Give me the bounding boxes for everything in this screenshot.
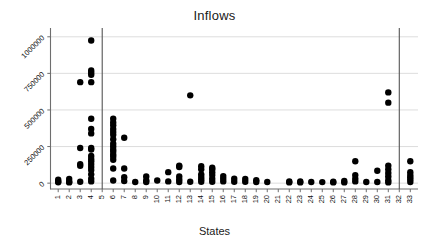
x-tick-label-1: 1 <box>53 195 62 199</box>
data-point <box>143 179 149 185</box>
data-point <box>165 178 171 184</box>
data-point <box>88 146 94 152</box>
data-point <box>385 99 391 105</box>
data-point <box>374 179 380 185</box>
data-point <box>308 179 314 185</box>
chart-figure: Inflows 02500005000007500001000000 12345… <box>0 0 429 248</box>
data-point <box>341 179 347 185</box>
data-point <box>385 89 391 95</box>
x-axis-title: States <box>0 225 429 237</box>
data-point <box>132 179 138 185</box>
x-tick-label-24: 24 <box>306 195 315 203</box>
x-tick-label-2: 2 <box>64 195 73 199</box>
data-point <box>363 179 369 185</box>
data-point <box>187 92 193 98</box>
data-point <box>88 79 94 85</box>
data-point <box>110 157 116 163</box>
x-tick-label-11: 11 <box>163 195 172 203</box>
x-tick-label-14: 14 <box>196 195 205 203</box>
x-tick-label-26: 26 <box>328 195 337 203</box>
data-point <box>88 37 94 43</box>
data-point <box>352 178 358 184</box>
y-tick-label-500000: 500000 <box>22 107 46 131</box>
x-tick-label-20: 20 <box>262 195 271 203</box>
x-tick-label-16: 16 <box>218 195 227 203</box>
data-point <box>407 158 413 164</box>
data-point <box>77 145 83 151</box>
data-point <box>330 179 336 185</box>
data-point <box>209 178 215 184</box>
x-tick-label-15: 15 <box>207 195 216 203</box>
data-point <box>198 178 204 184</box>
data-point <box>319 179 325 185</box>
data-point <box>264 179 270 185</box>
data-point <box>77 178 83 184</box>
axis-spines <box>51 28 419 190</box>
data-point <box>88 130 94 136</box>
data-point <box>352 158 358 164</box>
x-tick-label-13: 13 <box>185 195 194 203</box>
data-point <box>88 178 94 184</box>
data-point <box>176 164 182 170</box>
data-point <box>231 178 237 184</box>
data-point <box>88 116 94 122</box>
x-tick-label-18: 18 <box>240 195 249 203</box>
x-tick-label-4: 4 <box>86 195 95 199</box>
x-tick-label-5: 5 <box>97 195 106 199</box>
x-tick-label-6: 6 <box>108 195 117 199</box>
x-tick-label-27: 27 <box>339 195 348 203</box>
data-point <box>253 179 259 185</box>
x-tick-label-3: 3 <box>75 195 84 199</box>
data-point <box>88 72 94 78</box>
x-tick-label-29: 29 <box>361 195 370 203</box>
data-point <box>66 179 72 185</box>
x-tick-label-30: 30 <box>372 195 381 203</box>
data-point <box>297 179 303 185</box>
data-point <box>385 179 391 185</box>
x-tick-label-33: 33 <box>405 195 414 203</box>
x-tick-label-28: 28 <box>350 195 359 203</box>
y-tick-label-1000000: 1000000 <box>19 33 46 60</box>
scatter-plot-canvas: 02500005000007500001000000 1234567891011… <box>0 0 429 248</box>
x-tick-label-31: 31 <box>383 195 392 203</box>
gridlines-group <box>51 37 419 183</box>
x-tick-label-19: 19 <box>251 195 260 203</box>
data-point <box>286 179 292 185</box>
x-tick-label-9: 9 <box>141 195 150 199</box>
x-tick-label-12: 12 <box>174 195 183 203</box>
data-point <box>165 169 171 175</box>
data-point <box>121 165 127 171</box>
data-point <box>121 135 127 141</box>
data-point <box>121 178 127 184</box>
x-tick-label-8: 8 <box>130 195 139 199</box>
data-point <box>374 168 380 174</box>
data-point <box>220 178 226 184</box>
data-point <box>154 177 160 183</box>
x-tick-label-32: 32 <box>394 195 403 203</box>
x-tick-label-22: 22 <box>284 195 293 203</box>
x-tick-label-17: 17 <box>229 195 238 203</box>
data-point <box>176 179 182 185</box>
x-tick-label-10: 10 <box>152 195 161 203</box>
data-point <box>110 177 116 183</box>
x-axis-ticks: 1234567891011121314151617181920212223242… <box>53 189 414 203</box>
x-tick-label-23: 23 <box>295 195 304 203</box>
y-tick-label-0: 0 <box>37 180 46 189</box>
data-point <box>187 178 193 184</box>
data-point <box>77 163 83 169</box>
y-tick-label-250000: 250000 <box>22 143 46 167</box>
y-tick-label-750000: 750000 <box>22 70 46 94</box>
data-point <box>77 79 83 85</box>
data-point <box>55 179 61 185</box>
x-tick-label-25: 25 <box>317 195 326 203</box>
x-tick-label-7: 7 <box>119 195 128 199</box>
x-tick-label-21: 21 <box>273 195 282 203</box>
data-point <box>110 165 116 171</box>
data-point <box>407 179 413 185</box>
data-point <box>242 178 248 184</box>
y-axis-ticks: 02500005000007500001000000 <box>19 33 50 189</box>
reference-lines-group <box>102 28 399 189</box>
data-points-group <box>55 37 413 185</box>
